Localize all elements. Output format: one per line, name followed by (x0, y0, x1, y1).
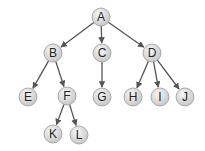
edge-F-K (56, 104, 63, 124)
node-label: I (158, 90, 161, 104)
node-label: H (129, 90, 138, 104)
node-label: D (148, 46, 157, 60)
node-label: L (76, 128, 83, 142)
node-I: I (151, 88, 169, 106)
node-D: D (143, 44, 161, 62)
node-label: E (24, 90, 32, 104)
node-J: J (176, 88, 194, 106)
edge-D-I (154, 62, 159, 87)
edge-B-F (56, 62, 64, 87)
node-label: A (97, 10, 105, 24)
node-A: A (92, 8, 110, 26)
node-C: C (93, 44, 111, 62)
node-label: G (97, 90, 106, 104)
node-F: F (58, 87, 76, 105)
node-E: E (19, 88, 37, 106)
node-label: C (98, 46, 107, 60)
edge-B-E (33, 61, 49, 88)
node-H: H (124, 88, 142, 106)
edges-layer (33, 22, 179, 125)
nodes-layer: ABCDEFGHIJKL (19, 8, 194, 144)
node-G: G (93, 88, 111, 106)
node-label: K (49, 127, 57, 141)
tree-diagram: ABCDEFGHIJKL (0, 0, 205, 151)
node-label: J (182, 90, 188, 104)
edge-F-L (70, 105, 76, 126)
edge-D-H (137, 61, 148, 88)
edge-A-D (108, 22, 143, 47)
edge-D-J (157, 60, 179, 89)
edge-A-B (61, 22, 94, 47)
node-B: B (44, 44, 62, 62)
node-label: B (49, 46, 57, 60)
node-L: L (70, 126, 88, 144)
node-label: F (63, 89, 70, 103)
node-K: K (44, 125, 62, 143)
